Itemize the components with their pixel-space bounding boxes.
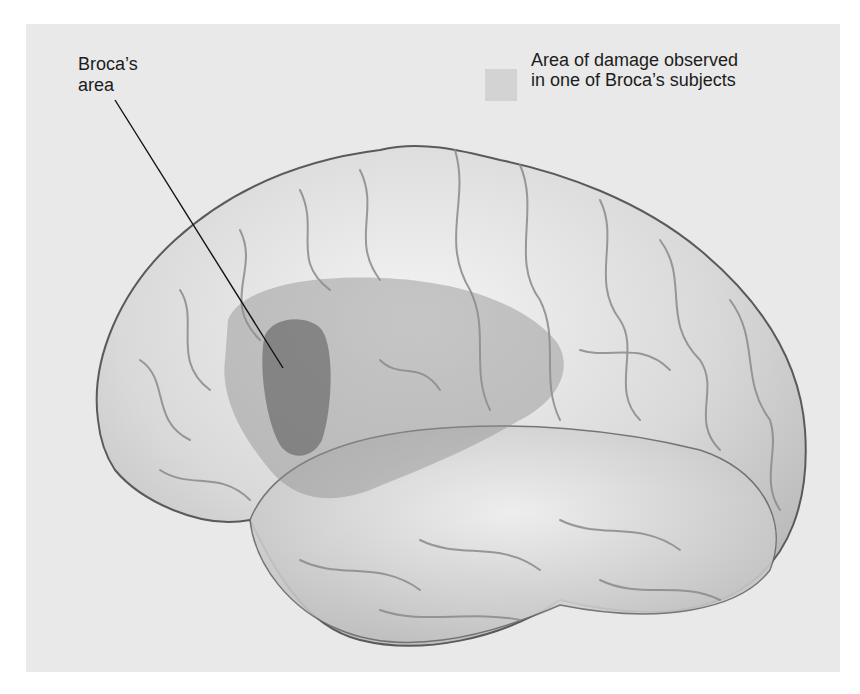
legend-line2: in one of Broca’s subjects [531, 70, 738, 90]
legend-text: Area of damage observed in one of Broca’… [531, 50, 738, 90]
broca-label-line2: area [78, 75, 138, 96]
brain-illustration [0, 0, 860, 694]
broca-label-line1: Broca’s [78, 54, 138, 75]
broca-area-label: Broca’s area [78, 54, 138, 96]
damage-legend-swatch [485, 69, 517, 101]
legend: Area of damage observed in one of Broca’… [485, 50, 738, 101]
legend-line1: Area of damage observed [531, 50, 738, 70]
